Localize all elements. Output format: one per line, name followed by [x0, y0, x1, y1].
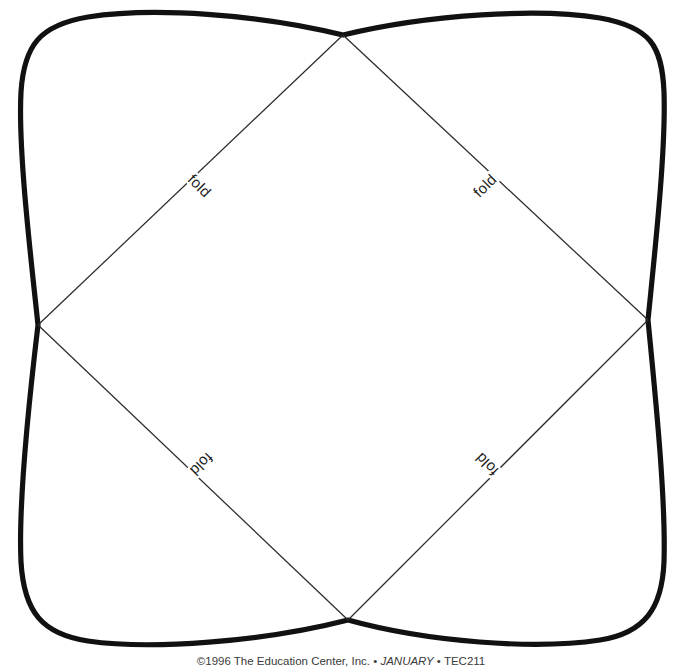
footer-issue: JANUARY — [380, 655, 433, 667]
footer-separator-1: • — [370, 655, 380, 667]
footer-separator-2: • — [434, 655, 444, 667]
footer-product-code: TEC211 — [444, 655, 485, 667]
outer-outline-shape — [21, 13, 665, 645]
pattern-page: fold fold fold fold ©1996 The Education … — [0, 0, 682, 667]
copyright-notice: ©1996 The Education Center, Inc. — [197, 655, 370, 667]
fold-pattern-graphic — [0, 0, 682, 667]
copyright-footer: ©1996 The Education Center, Inc. • JANUA… — [0, 655, 682, 667]
